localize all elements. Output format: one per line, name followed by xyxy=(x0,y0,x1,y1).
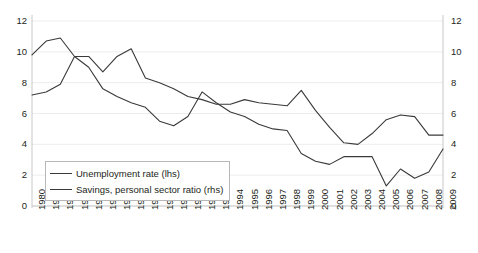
y-tick-label-left: 0 xyxy=(5,200,27,211)
legend-label-unemployment: Unemployment rate (lhs) xyxy=(76,168,180,179)
chart-container: 024681012 024681012 19801981198219831984… xyxy=(0,0,478,253)
x-tick-label: 2002 xyxy=(348,189,359,210)
y-tick-label-left: 8 xyxy=(5,77,27,88)
legend-item-unemployment-rate: Unemployment rate (lhs) xyxy=(50,165,223,181)
y-tick-label-left: 10 xyxy=(5,46,27,57)
x-tick-label: 2006 xyxy=(404,189,415,210)
y-tick-label-right: 4 xyxy=(451,138,473,149)
x-tick-label: 1994 xyxy=(234,189,245,210)
y-tick-label-left: 2 xyxy=(5,169,27,180)
chart-plot-area xyxy=(0,0,478,253)
y-tick-label-left: 6 xyxy=(5,108,27,119)
series-line-unemployment-rate xyxy=(32,49,443,145)
x-tick-label: 1996 xyxy=(263,189,274,210)
y-tick-label-left: 4 xyxy=(5,138,27,149)
x-tick-label: 1997 xyxy=(277,189,288,210)
x-tick-label: 2005 xyxy=(390,189,401,210)
x-tick-label: 2001 xyxy=(334,189,345,210)
x-tick-label: 2003 xyxy=(362,189,373,210)
x-tick-label: 2009 xyxy=(447,189,458,210)
x-tick-label: 1995 xyxy=(249,189,260,210)
y-tick-label-right: 8 xyxy=(451,77,473,88)
y-tick-label-left: 12 xyxy=(5,15,27,26)
y-tick-label-right: 6 xyxy=(451,108,473,119)
x-tick-label: 2004 xyxy=(376,189,387,210)
legend-line-swatch-unemployment xyxy=(50,173,72,174)
x-tick-label: 1999 xyxy=(305,189,316,210)
legend-label-savings: Savings, personal sector ratio (rhs) xyxy=(76,184,223,195)
x-tick-label: 2000 xyxy=(319,189,330,210)
legend-item-savings-ratio: Savings, personal sector ratio (rhs) xyxy=(50,181,223,197)
y-tick-label-right: 10 xyxy=(451,46,473,57)
x-tick-label: 1998 xyxy=(291,189,302,210)
legend-line-swatch-savings xyxy=(50,189,72,190)
x-tick-label: 2007 xyxy=(419,189,430,210)
x-tick-label: 2008 xyxy=(433,189,444,210)
y-tick-label-right: 12 xyxy=(451,15,473,26)
y-tick-label-right: 2 xyxy=(451,169,473,180)
chart-legend: Unemployment rate (lhs) Savings, persona… xyxy=(45,161,230,201)
